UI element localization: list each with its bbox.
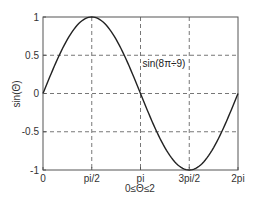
x-axis-label: 0≤Θ≤2 — [125, 183, 155, 194]
x-tick-label: 0 — [40, 173, 46, 184]
curve-annotation: sin(8π÷9) — [143, 58, 186, 69]
y-tick-label: -1 — [30, 165, 39, 176]
x-tick-label: 2pi — [231, 173, 244, 184]
y-tick-label: 0 — [33, 88, 39, 99]
y-tick-label: -0.5 — [22, 126, 40, 137]
x-tick-label: pi/2 — [84, 173, 101, 184]
x-tick-label: 3pi/2 — [178, 173, 200, 184]
y-tick-label: 0.5 — [25, 50, 39, 61]
y-axis-label: sin(Θ) — [11, 80, 22, 107]
y-axis-ticks: -1-0.500.51 — [22, 12, 46, 176]
sine-chart: 0pi/2pi3pi/22pi -1-0.500.51 sin(8π÷9) 0≤… — [0, 0, 256, 210]
y-tick-label: 1 — [33, 12, 39, 23]
